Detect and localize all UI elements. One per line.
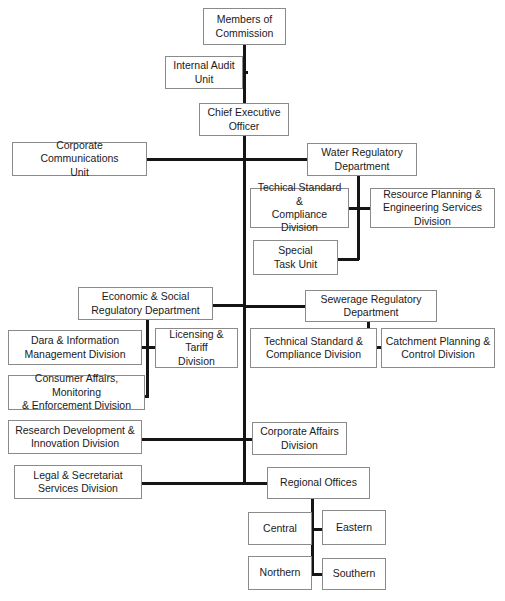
- node-resource-planning-engineering-services-division[interactable]: Resource Planning & Engineering Services…: [370, 188, 495, 228]
- node-techical-standard-compliance-division-water[interactable]: Techical Standard & Compliance Division: [250, 188, 349, 228]
- node-eastern[interactable]: Eastern: [322, 510, 386, 545]
- node-economic-social-regulatory-department[interactable]: Economic & Social Regulatory Department: [78, 287, 213, 320]
- connector-corporate-comms-to-water-dept: [147, 158, 307, 161]
- node-catchment-planning-control-division[interactable]: Catchment Planning & Control Division: [381, 328, 495, 368]
- node-southern[interactable]: Southern: [322, 558, 386, 590]
- node-regional-offices[interactable]: Regional Offices: [267, 467, 370, 499]
- node-research-development-innovation-division[interactable]: Research Development & Innovation Divisi…: [8, 420, 142, 454]
- connector-economic-dept-to-trunk: [213, 304, 245, 307]
- connector-economic-dept-stem: [146, 320, 149, 397]
- node-water-regulatory-department[interactable]: Water Regulatory Department: [307, 143, 417, 176]
- node-special-task-unit[interactable]: Special Task Unit: [253, 240, 338, 275]
- node-chief-executive-officer[interactable]: Chief Executive Officer: [199, 103, 289, 136]
- connector-legal-secretariat-to-trunk: [142, 482, 245, 485]
- connector-regional-offices-to-trunk: [243, 482, 269, 485]
- connector-internal-audit-to-trunk: [243, 71, 248, 74]
- node-technical-standard-compliance-division-sewerage[interactable]: Technical Standard & Compliance Division: [250, 328, 377, 368]
- node-sewerage-regulatory-department[interactable]: Sewerage Regulatory Department: [305, 290, 437, 322]
- node-northern[interactable]: Northern: [248, 556, 312, 590]
- connector-water-dept-stem: [357, 176, 360, 260]
- node-central[interactable]: Central: [248, 512, 312, 545]
- connector-sewerage-dept-to-trunk: [243, 305, 305, 308]
- node-corporate-communications-unit[interactable]: Corporate Communications Unit: [12, 142, 147, 176]
- connector-water-divisions-crossbar: [349, 207, 370, 210]
- organisational-chart: Members of CommissionInternal Audit Unit…: [0, 0, 505, 601]
- connector-consumer-affairs-to-stem: [145, 395, 149, 398]
- connector-special-task-to-water-stem: [338, 258, 359, 261]
- node-members-of-commission[interactable]: Members of Commission: [203, 8, 286, 45]
- node-corporate-affairs-division[interactable]: Corporate Affairs Division: [252, 422, 347, 455]
- connector-research-dev-to-trunk: [142, 438, 245, 441]
- node-licensing-tariff-division[interactable]: Licensing & Tariff Division: [155, 328, 238, 368]
- connector-ceo-main-trunk: [243, 136, 246, 485]
- connector-economic-divisions-crossbar: [142, 346, 155, 349]
- connector-commission-to-ceo-trunk: [243, 45, 246, 103]
- node-consumer-affairs-monitoring-enforcement-division[interactable]: Consumer Affairs, Monitoring & Enforceme…: [8, 375, 145, 410]
- node-dara-information-management-division[interactable]: Dara & Information Management Division: [8, 330, 142, 365]
- node-legal-secretariat-services-division[interactable]: Legal & Secretariat Services Division: [14, 465, 142, 499]
- node-internal-audit-unit[interactable]: Internal Audit Unit: [165, 56, 243, 89]
